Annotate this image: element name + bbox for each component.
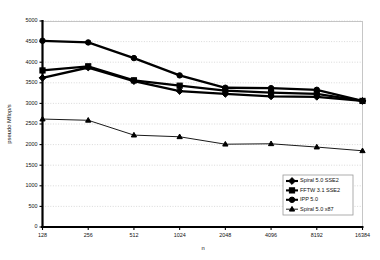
legend-marker — [289, 188, 294, 193]
y-tick-label: 3000 — [26, 100, 38, 106]
y-tick-label: 1000 — [26, 182, 38, 188]
data-point — [86, 64, 91, 69]
x-tick-label: 512 — [129, 232, 138, 238]
series-layer — [39, 38, 366, 153]
x-tick-label: 16384 — [355, 232, 370, 238]
y-tick-label: 0 — [35, 223, 38, 229]
y-tick-label: 5000 — [26, 17, 38, 23]
legend-item-3: IPP 5.0 — [286, 196, 318, 202]
line-chart: 0500100015002000250030003500400045005000… — [0, 0, 380, 260]
data-point — [268, 141, 273, 146]
data-point — [86, 118, 91, 123]
data-point — [314, 87, 319, 92]
data-point — [360, 148, 365, 153]
legend-label: Spiral 5.0 SSE2 — [300, 177, 339, 183]
legend-marker — [289, 197, 294, 202]
data-point — [131, 55, 136, 60]
x-axis: 128256512102420484096819216384 — [38, 227, 370, 238]
x-axis-title: n — [201, 245, 204, 251]
y-tick-label: 2000 — [26, 141, 38, 147]
legend-label: FFTW 3.1 SSE2 — [300, 187, 340, 193]
series-1 — [39, 64, 366, 104]
data-point — [131, 132, 136, 137]
y-tick-label: 500 — [29, 203, 38, 209]
data-point — [177, 83, 182, 88]
x-tick-label: 1024 — [174, 232, 186, 238]
x-tick-label: 256 — [84, 232, 93, 238]
legend-label: IPP 5.0 — [300, 196, 318, 202]
y-tick-label: 2500 — [26, 120, 38, 126]
y-tick-label: 4500 — [26, 38, 38, 44]
data-point — [314, 144, 319, 149]
series-4 — [40, 116, 365, 152]
y-axis-title: pseudo Mflop/s — [6, 104, 12, 143]
data-point — [360, 98, 365, 103]
data-point — [131, 78, 136, 83]
y-tick-label: 1500 — [26, 162, 38, 168]
data-point — [40, 68, 45, 73]
data-point — [177, 73, 182, 78]
data-point — [223, 141, 228, 146]
x-tick-label: 128 — [38, 232, 47, 238]
data-point — [40, 38, 45, 43]
chart-container: 0500100015002000250030003500400045005000… — [0, 0, 380, 260]
y-tick-label: 4000 — [26, 59, 38, 65]
legend-item-2: FFTW 3.1 SSE2 — [286, 187, 340, 193]
data-point — [223, 85, 228, 90]
y-tick-label: 3500 — [26, 79, 38, 85]
chart-legend: Spiral 5.0 SSE2FFTW 3.1 SSE2IPP 5.0Spira… — [283, 175, 353, 215]
data-point — [40, 116, 45, 121]
y-axis: 0500100015002000250030003500400045005000 — [26, 17, 43, 229]
x-tick-label: 8192 — [311, 232, 323, 238]
x-tick-label: 2048 — [219, 232, 231, 238]
data-point — [85, 40, 90, 45]
data-point — [177, 134, 182, 139]
data-point — [39, 74, 46, 81]
x-tick-label: 4096 — [265, 232, 277, 238]
data-point — [268, 85, 273, 90]
legend-label: Spiral 5.0 x87 — [300, 206, 334, 212]
